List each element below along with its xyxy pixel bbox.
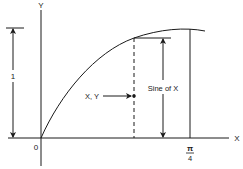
point-dot xyxy=(132,94,136,98)
point-label: X, Y xyxy=(85,92,99,101)
sine-of-x-label: Sine of X xyxy=(148,84,178,93)
sine-curve xyxy=(41,29,205,138)
sine-diagram: Y X 0 1 Sine of X π 4 X, Y xyxy=(0,0,243,169)
y-axis-label: Y xyxy=(38,1,44,10)
x-axis-label: X xyxy=(234,134,240,143)
unit-height-label: 1 xyxy=(11,72,16,81)
pi-over-4-denominator: 4 xyxy=(188,154,192,163)
pi-over-4-numerator: π xyxy=(187,144,193,153)
origin-label: 0 xyxy=(34,143,39,152)
